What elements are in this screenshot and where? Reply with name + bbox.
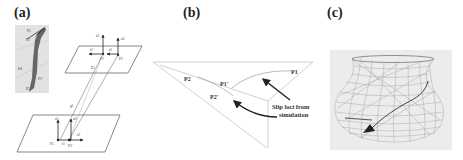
panel-c [330,50,452,150]
annotation-arrow-upper [263,79,290,100]
upper-plane: n1 n2 t1' t2 P1' P2 Σ1 [65,34,142,73]
label-p1-prime: P1' [220,81,229,87]
label-n1-lower: n1 [55,117,59,121]
label-p1: P1 [291,69,298,75]
annotation-text-line1: Slip loci from [272,103,310,110]
label-g1: g1 [70,104,74,108]
annotation-arrow-lower [234,101,277,117]
panel-b: P2 P1' P2' P1 Slip loci from simulation [153,62,313,148]
mesh-background [330,50,452,150]
lower-plane: n1 n2' t1 t2' P1 P2' [17,115,120,152]
inset-label-p1: P1 [27,29,31,33]
inset-label-p1prime: P1' [38,77,43,81]
annotation-text-line2: simulation [279,111,309,118]
label-sigma1: Σ1 [91,66,95,70]
inset-label-p2prime: P2' [26,38,31,42]
panel-a: P1 P2' Pd P2 P1' n1 n2 t1' t2 P1' P2 Σ1 [15,25,142,152]
label-t1-lower: t1 [62,142,65,146]
label-n1-upper: n1 [96,34,100,38]
label-t1prime: t1' [90,48,94,52]
label-p2-prime: P2' [210,94,219,100]
label-n2prime-lower: n2' [73,117,78,121]
inset-label-p2: P2 [26,87,30,91]
finger-inset: P1 P2' Pd P2 P1' [15,25,49,93]
connector-lines: g1 [60,54,118,140]
slip-locus-p1 [232,71,291,88]
label-p2: P2 [184,76,191,82]
figure-canvas: P1 P2' Pd P2 P1' n1 n2 t1' t2 P1' P2 Σ1 [0,0,463,160]
label-t2prime-lower: t2' [77,133,81,137]
label-p2prime-lower: P2' [68,144,73,148]
label-t2: t2 [109,48,112,52]
inset-label-pd: Pd [18,67,22,71]
label-p1-lower: P1 [50,142,54,146]
label-p2-upper: P2 [119,57,123,61]
label-n2-upper: n2 [121,37,125,41]
